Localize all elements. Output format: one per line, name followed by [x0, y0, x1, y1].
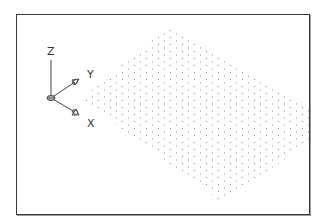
y-axis-label: Y	[86, 68, 94, 81]
y-axis-line	[51, 82, 75, 98]
drawing-canvas: Z Y X	[17, 15, 309, 214]
x-axis-arrow-icon	[71, 109, 79, 115]
y-axis-arrow-icon	[71, 79, 79, 85]
x-axis-label: X	[87, 117, 95, 130]
isometric-dot-grid	[17, 15, 309, 214]
x-axis-line	[51, 98, 75, 112]
z-axis-label: Z	[47, 45, 55, 58]
origin-icon	[47, 96, 55, 101]
drawing-viewport[interactable]: Z Y X	[16, 14, 310, 215]
ucs-icon: Z Y X	[47, 45, 95, 130]
